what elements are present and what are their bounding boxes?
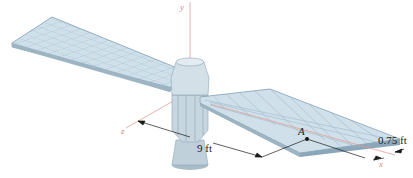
z-axis xyxy=(126,100,175,128)
x-axis-label: x xyxy=(379,160,383,169)
left-solar-panel xyxy=(12,17,182,92)
right-solar-panel xyxy=(200,89,400,157)
point-a-label: A xyxy=(298,126,305,137)
offset-label: 0.75 ft xyxy=(378,135,407,146)
satellite-diagram: y z x A 9 ft 0.75 ft xyxy=(0,0,413,178)
distance-label: 9 ft xyxy=(197,143,212,154)
z-axis-label: z xyxy=(121,127,125,136)
y-axis-label: y xyxy=(180,3,184,12)
